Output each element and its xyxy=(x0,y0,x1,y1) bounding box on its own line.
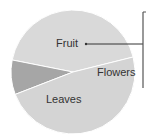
pie-chart: Fruit Flowers Leaves xyxy=(0,0,148,135)
label-flowers: Flowers xyxy=(97,66,136,78)
label-leaves: Leaves xyxy=(46,93,82,105)
label-fruit: Fruit xyxy=(56,37,78,49)
